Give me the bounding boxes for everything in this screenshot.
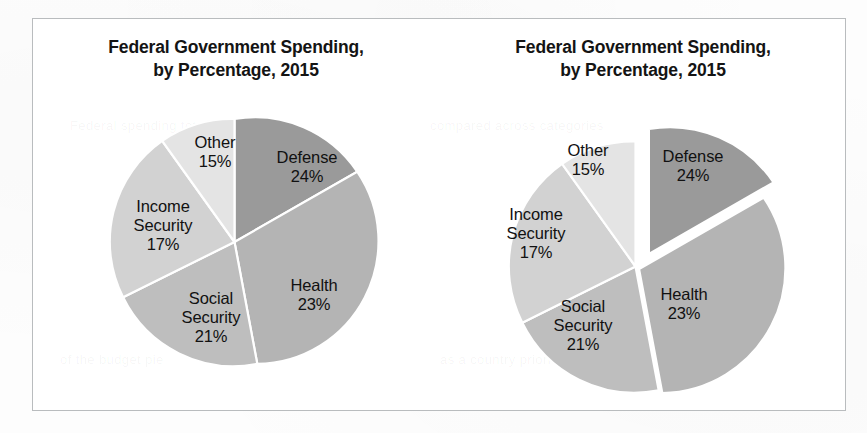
pie-chart-left <box>87 90 387 380</box>
figure-root: Federal spending totals compared across … <box>0 0 867 433</box>
chart-title-right: Federal Government Spending, by Percenta… <box>440 36 846 82</box>
pie-chart-right <box>478 94 808 394</box>
pie-left-slices <box>110 117 379 366</box>
pie-left-svg <box>87 90 387 380</box>
chart-panel-left: Federal Government Spending, by Percenta… <box>33 18 439 411</box>
pie-right-svg <box>478 94 808 394</box>
chart-title-left: Federal Government Spending, by Percenta… <box>33 36 439 82</box>
chart-panel-right: Federal Government Spending, by Percenta… <box>440 18 846 411</box>
pie-right-slices <box>509 127 786 393</box>
